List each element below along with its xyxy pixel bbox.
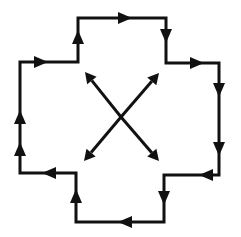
- cross-cycle-diagram: [0, 0, 241, 237]
- cross-arrow-down-right: [121, 117, 159, 161]
- arrowhead-right-icon: [34, 56, 48, 68]
- arrowhead-down-icon: [213, 142, 225, 156]
- diagram-canvas: [0, 0, 241, 237]
- arrowhead-left-icon: [118, 216, 132, 228]
- cross-arrow-up-left: [85, 72, 121, 117]
- arrowhead-left-icon: [199, 169, 213, 181]
- cross-arrow-up-right: [121, 73, 159, 117]
- arrowhead-up-icon: [70, 189, 82, 203]
- arrowhead-left-icon: [42, 167, 56, 179]
- arrowhead-down-icon: [158, 191, 170, 205]
- center-cross-arrows: [84, 72, 159, 161]
- cross-arrow-down-left: [84, 117, 121, 161]
- arrowhead-up-icon: [14, 142, 26, 156]
- arrowhead-right-icon: [190, 57, 204, 69]
- arrowhead-down-icon: [160, 29, 172, 43]
- arrowhead-up-icon: [72, 30, 84, 44]
- arrowhead-down-icon: [213, 83, 225, 97]
- arrowhead-up-icon: [14, 110, 26, 124]
- arrowhead-right-icon: [118, 12, 132, 24]
